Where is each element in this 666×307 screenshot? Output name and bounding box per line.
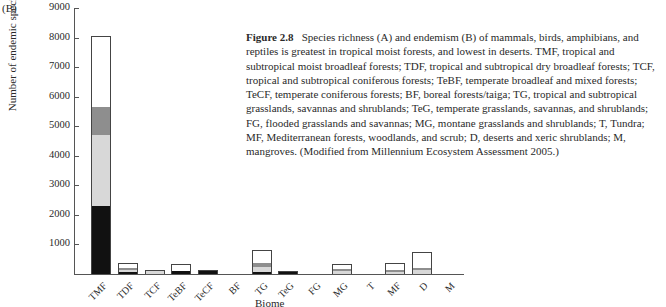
bar-tebf bbox=[171, 264, 191, 274]
x-axis-title: Biome bbox=[255, 297, 284, 307]
bar-segment bbox=[278, 271, 298, 274]
y-tick bbox=[74, 185, 79, 186]
x-axis-line bbox=[74, 274, 464, 275]
x-tick-label: BF bbox=[214, 280, 243, 307]
x-tick-label: FG bbox=[294, 280, 323, 307]
y-tick bbox=[74, 215, 79, 216]
x-tick-label: TDF bbox=[107, 280, 136, 307]
y-tick-label: 5000 bbox=[30, 119, 70, 130]
caption-text: Species richness (A) and endemism (B) of… bbox=[246, 31, 655, 157]
y-tick bbox=[74, 126, 79, 127]
bar-segment bbox=[145, 270, 165, 274]
bar-tcf bbox=[145, 270, 165, 274]
x-tick-label: TMF bbox=[80, 280, 109, 307]
bar-segment bbox=[252, 250, 272, 262]
bar-segment bbox=[198, 270, 218, 274]
y-tick bbox=[74, 244, 79, 245]
x-tick-label: MF bbox=[374, 280, 403, 307]
y-tick bbox=[74, 156, 79, 157]
bar-tdf bbox=[118, 263, 138, 274]
y-tick-label: 4000 bbox=[30, 149, 70, 160]
bar-segment bbox=[118, 272, 138, 274]
x-tick-label: TeCF bbox=[187, 280, 216, 307]
y-tick-label: 8000 bbox=[30, 31, 70, 42]
y-tick-label: 3000 bbox=[30, 178, 70, 189]
figure-number: Figure 2.8 bbox=[246, 31, 293, 43]
y-axis-title: Number of endemic species bbox=[6, 0, 18, 140]
y-tick bbox=[74, 67, 79, 68]
y-axis-line bbox=[74, 8, 75, 274]
x-tick-label: MG bbox=[321, 280, 350, 307]
bar-segment bbox=[412, 252, 432, 267]
bar-mf bbox=[385, 263, 405, 274]
x-tick-label: D bbox=[401, 280, 430, 307]
x-tick-label: TeBF bbox=[160, 280, 189, 307]
bar-segment bbox=[91, 107, 111, 135]
y-tick-label: 7000 bbox=[30, 60, 70, 71]
bar-segment bbox=[91, 36, 111, 107]
bar-teg bbox=[278, 271, 298, 274]
bar-segment bbox=[252, 272, 272, 274]
figure-caption: Figure 2.8 Species richness (A) and ende… bbox=[246, 30, 664, 159]
bar-mg bbox=[332, 264, 352, 274]
y-tick bbox=[74, 38, 79, 39]
y-tick-label: 1000 bbox=[30, 237, 70, 248]
bar-tmf bbox=[91, 36, 111, 274]
y-tick-label: 2000 bbox=[30, 208, 70, 219]
y-tick bbox=[74, 97, 79, 98]
bar-d bbox=[412, 252, 432, 274]
x-tick-label: TCF bbox=[133, 280, 162, 307]
y-tick-label: 6000 bbox=[30, 90, 70, 101]
bar-segment bbox=[385, 272, 405, 274]
bar-tg bbox=[252, 250, 272, 274]
bar-segment bbox=[91, 135, 111, 206]
x-tick-label: T bbox=[347, 280, 376, 307]
bar-segment bbox=[171, 264, 191, 272]
bar-segment bbox=[171, 271, 191, 274]
x-tick-label: M bbox=[428, 280, 457, 307]
y-tick-label: 9000 bbox=[30, 1, 70, 12]
bar-tecf bbox=[198, 270, 218, 274]
bar-segment bbox=[91, 206, 111, 274]
bar-segment bbox=[332, 271, 352, 274]
y-tick bbox=[74, 8, 79, 9]
bar-segment bbox=[412, 270, 432, 274]
